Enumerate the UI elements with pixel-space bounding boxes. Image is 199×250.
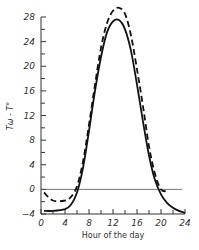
x-tick-label: 24 (179, 218, 191, 228)
y-tick-label: −4 (22, 209, 36, 219)
y-tick-label: 16 (24, 86, 36, 96)
x-tick-label: 0 (38, 218, 44, 228)
solid-series-line (44, 19, 185, 212)
y-axis-title: Tω - T° (6, 102, 15, 130)
y-tick-label: 0 (29, 184, 35, 194)
x-tick-label: 4 (62, 218, 68, 228)
y-tick-label: 4 (29, 160, 35, 170)
y-axis: −40481216202428 (22, 12, 46, 219)
y-tick-label: 8 (29, 135, 35, 145)
x-axis: 04812162024 (38, 209, 191, 228)
x-tick-label: 12 (107, 218, 119, 228)
y-tick-label: 28 (24, 12, 36, 22)
chart-svg: −40481216202428 04812162024 Hour of the … (0, 0, 199, 250)
x-tick-label: 16 (131, 218, 143, 228)
x-tick-label: 20 (155, 218, 167, 228)
x-axis-title: Hour of the day (82, 231, 145, 240)
y-tick-label: 12 (24, 111, 36, 121)
y-tick-label: 20 (24, 61, 36, 71)
y-tick-label: 24 (24, 37, 36, 47)
x-tick-label: 8 (86, 218, 92, 228)
